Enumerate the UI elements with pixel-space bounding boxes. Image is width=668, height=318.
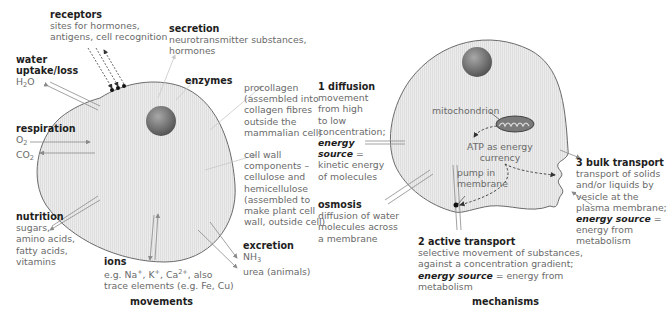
label-osmosis: osmosis diffusion of water molecules acr… (318, 199, 399, 244)
label-atp: ATP as energy currency (467, 141, 533, 163)
caption-mechanisms: mechanisms (472, 296, 539, 307)
label-cell-wall: cell wall components – cellulose and hem… (244, 149, 325, 227)
label-procollagen: procollagen (assembled into collagen fib… (244, 82, 322, 138)
membrane-pump-dot (454, 203, 459, 208)
label-diffusion: 1 diffusion movement from high to low co… (318, 81, 386, 182)
label-bulk-transport: 3 bulk transport transport of solids and… (576, 157, 667, 247)
label-pump: pump in membrane (457, 167, 508, 189)
label-receptors: receptors sites for hormones, antigens, … (50, 9, 167, 43)
right-nucleus (462, 47, 492, 77)
label-respiration: respiration O2 CO2 (16, 123, 76, 165)
left-nucleus (146, 106, 176, 136)
label-mitochondrion: mitochondrion (432, 105, 499, 116)
label-nutrition: nutrition sugars, amino acids, fatty aci… (16, 211, 75, 267)
label-water: water uptake/loss H2O (16, 54, 78, 92)
label-excretion: excretion NH3 urea (animals) (243, 240, 311, 278)
mitochondrion-icon (496, 116, 534, 132)
label-enzymes: enzymes (185, 75, 232, 86)
label-ions: ions e.g. Na+, K+, Ca2+, also trace elem… (104, 256, 234, 292)
label-active-transport: 2 active transport selective movement of… (418, 236, 583, 292)
label-secretion: secretion neurotransmitter substances, h… (169, 23, 306, 57)
caption-movements: movements (130, 296, 193, 307)
